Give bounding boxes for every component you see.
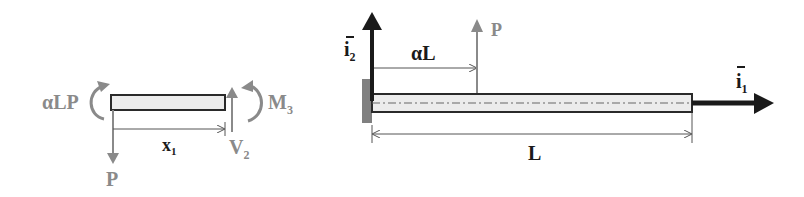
label-moment-left: αLP	[42, 91, 79, 113]
label-length-l: L	[528, 142, 541, 164]
label-v2: V2	[229, 136, 249, 162]
label-load-p-right: P	[491, 20, 502, 40]
label-x1: x1	[162, 135, 177, 157]
cantilever-diagram: i2 i1 αL P L	[344, 12, 774, 164]
label-alpha-l: αL	[411, 42, 436, 64]
label-i2: i2	[344, 38, 356, 64]
label-load-p-left: P	[106, 168, 118, 190]
beam-diagram: αLP P x1 V2 M3 i2 i1	[0, 0, 804, 197]
label-i1: i1	[736, 70, 748, 96]
label-m3: M3	[268, 91, 293, 117]
free-body-diagram: αLP P x1 V2 M3	[42, 80, 293, 190]
beam-segment	[111, 95, 225, 110]
